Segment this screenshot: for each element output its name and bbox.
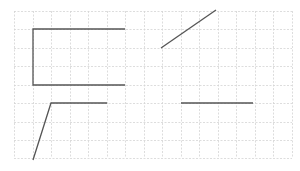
- bent-segment: [33, 103, 107, 160]
- diagonal-segment: [161, 10, 216, 48]
- open-rectangle: [33, 29, 125, 85]
- grid-drawing: [0, 0, 300, 171]
- line-shapes: [33, 10, 253, 160]
